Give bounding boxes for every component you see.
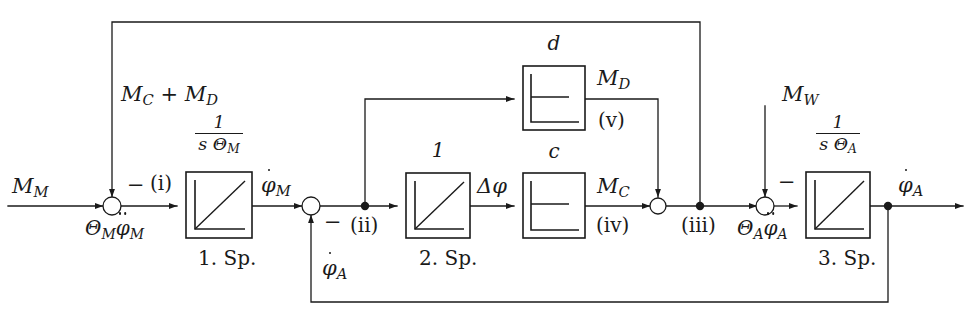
label-blockc-gain: c [523,141,585,161]
label-caption-block3: 3. Sp. [818,248,876,268]
label-feedback-bottom-omega: φA [322,258,347,282]
transfer-block-c [523,173,585,238]
label-feedback-top-moment: MC + MD [121,84,218,108]
label-node-iv: (iv) [596,215,629,235]
label-node-i: (i) [150,173,172,193]
label-blockd-gain: d [523,33,585,53]
label-block3-gain: 1 s ΘA [806,113,870,157]
label-sign-minus-mid: − [324,212,342,233]
label-block1-gain: 1 s ΘM [186,113,252,157]
summing-junction-right [756,197,774,215]
label-node-iii: (iii) [681,215,716,235]
label-input-moment: MM [12,176,49,200]
label-accel-abtrieb: ΘAφA [737,218,788,241]
label-omega-motor: φM [261,175,291,199]
label-block2-gain: 1 [406,140,470,160]
label-moment-d: MD [597,68,630,92]
label-moment-c: MC [597,176,630,200]
summing-junction-iv [650,198,666,214]
transfer-block-2 [406,173,470,238]
label-sign-minus-right: − [778,172,796,193]
label-delta-phi: Δφ [477,176,507,197]
transfer-block-1 [186,172,252,238]
branch-point-output [884,202,892,210]
label-accel-motor: ΘMφM [85,218,144,241]
label-caption-block1: 1. Sp. [198,248,256,268]
wiring-layer [0,0,973,325]
summing-junction-mid [302,197,320,215]
transfer-block-d [523,66,585,130]
transfer-block-3 [806,172,870,238]
branch-point-ii [361,202,369,210]
label-node-v: (v) [598,110,625,130]
label-caption-block2: 2. Sp. [419,248,477,268]
label-moment-w: MW [782,84,819,108]
branch-point-iii [696,202,704,210]
label-omega-abtrieb: φA [898,175,923,199]
label-sign-minus-left: − [127,175,145,196]
label-node-ii: (ii) [350,215,378,235]
block-diagram-canvas: MM MC + MD 1 s ΘM − (i) ΘMφM 1. Sp. φM −… [0,0,973,325]
